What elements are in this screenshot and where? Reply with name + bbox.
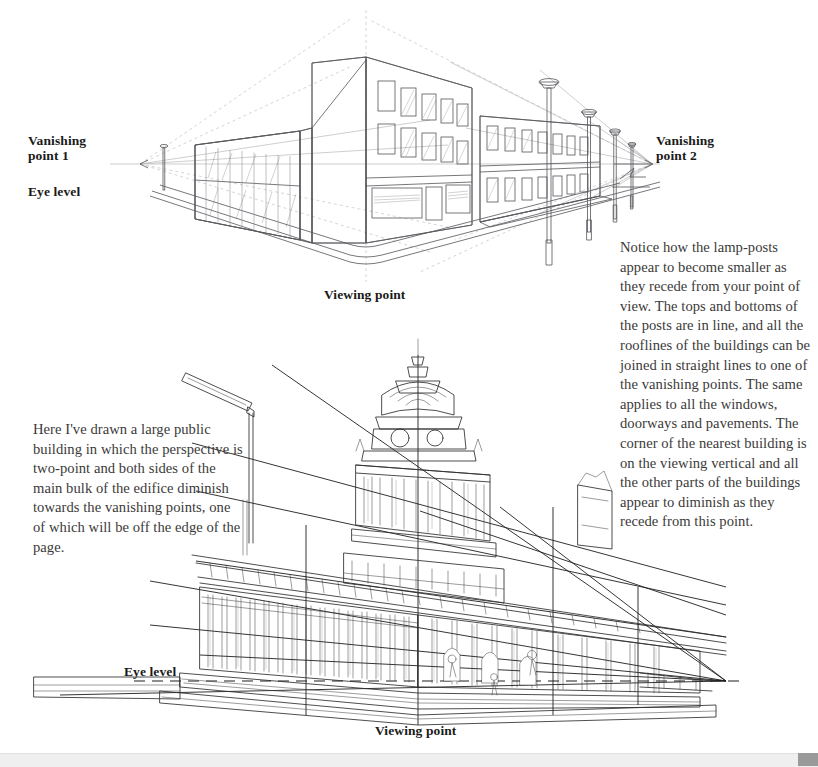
lamp-post-1 (539, 79, 559, 265)
tower-colonnade (352, 465, 496, 557)
right-pavilion (578, 471, 612, 549)
construction-lines-vp1 (110, 18, 660, 252)
vanishing-point-1-label: Vanishing point 1 (28, 133, 86, 163)
construction-lines-vp2 (370, 20, 652, 272)
clock-tower-dome (356, 339, 482, 461)
lamp-posts-group (160, 79, 636, 265)
attic-balustrade (210, 563, 640, 633)
lamp-post-far-left (160, 145, 168, 191)
building-main-block (312, 57, 472, 243)
page-canvas: Vanishing point 1 Eye level Vanishing po… (0, 0, 818, 745)
window-row-lower (378, 124, 468, 164)
viewing-point-label-top: Viewing point (324, 287, 405, 302)
eye-level-label-bottom: Eye level (124, 664, 176, 679)
lamp-post-2 (581, 109, 596, 240)
left-wing-bottom (34, 677, 180, 699)
shopfront-ground-floor (372, 185, 470, 220)
horizontal-scrollbar[interactable] (0, 745, 818, 766)
note-right: Notice how the lamp-posts appear to beco… (620, 238, 812, 532)
scrollbar-track[interactable] (0, 753, 818, 767)
note-left: Here I've drawn a large public building … (33, 420, 245, 557)
building-link-block (300, 60, 366, 243)
window-row-upper (378, 81, 468, 126)
main-entablature (192, 555, 726, 655)
viewing-point-label-bottom: Viewing point (375, 723, 456, 738)
tower-base (344, 553, 504, 603)
eye-level-label-top: Eye level (28, 184, 80, 199)
scrollbar-thumb[interactable] (798, 753, 818, 766)
vanishing-point-2-label: Vanishing point 2 (656, 133, 714, 163)
